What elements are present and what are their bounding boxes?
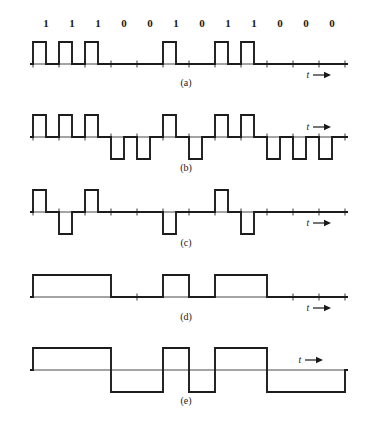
waveform-panel-b: t(b) (30, 115, 348, 174)
waveform-trace-d (30, 275, 348, 297)
waveform-panel-a: t(a) (30, 42, 348, 89)
time-arrow-head-b (324, 124, 331, 130)
panel-caption-d: (d) (180, 311, 192, 323)
bit-digit: 0 (303, 17, 309, 29)
time-axis-label-b: t (307, 121, 310, 132)
bit-digit: 1 (225, 17, 231, 29)
waveform-panel-c: t(c) (30, 190, 348, 249)
bit-digit: 1 (95, 17, 101, 29)
time-arrow-head-a (324, 72, 331, 78)
bit-digit: 0 (329, 17, 335, 29)
waveform-panel-e: t(e) (30, 348, 348, 407)
bit-digit: 0 (277, 17, 283, 29)
bit-digit: 0 (147, 17, 153, 29)
panel-caption-a: (a) (180, 77, 191, 89)
time-axis-label-a: t (307, 69, 310, 80)
time-arrow-head-c (324, 220, 331, 226)
panel-caption-c: (c) (180, 237, 191, 249)
time-arrow-head-e (316, 357, 323, 363)
line-coding-figure: 111001011000 t(a)t(b)t(c)t(d)t(e) (0, 0, 372, 433)
bit-digit: 1 (69, 17, 75, 29)
bit-digit: 1 (43, 17, 49, 29)
panel-caption-e: (e) (180, 395, 191, 407)
time-axis-label-d: t (307, 302, 310, 313)
waveform-trace-c (30, 190, 348, 234)
bit-digit: 0 (199, 17, 205, 29)
bit-digit: 1 (173, 17, 179, 29)
time-arrow-head-d (324, 305, 331, 311)
waveform-panels: t(a)t(b)t(c)t(d)t(e) (30, 42, 348, 407)
bit-digit: 0 (121, 17, 127, 29)
bit-digit: 1 (251, 17, 257, 29)
bit-sequence-row: 111001011000 (43, 17, 335, 29)
time-axis-label-c: t (307, 217, 310, 228)
panel-caption-b: (b) (180, 162, 192, 174)
time-axis-label-e: t (299, 354, 302, 365)
waveform-panel-d: t(d) (30, 275, 348, 323)
